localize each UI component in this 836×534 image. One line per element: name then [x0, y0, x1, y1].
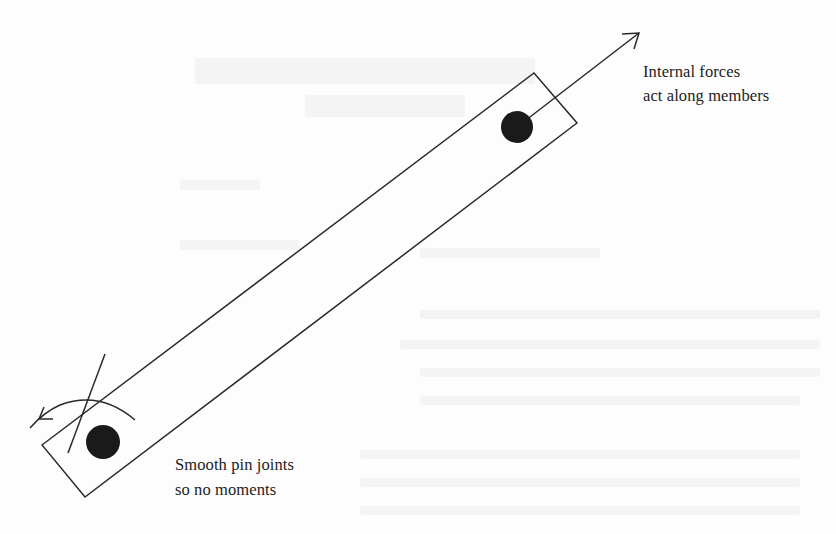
lower-pin-joint: [86, 425, 120, 459]
truss-member: [42, 73, 577, 497]
internal-forces-line-1: Internal forces: [643, 60, 769, 84]
figure-page: Internal forces act along members Smooth…: [0, 0, 836, 534]
pin-joints-line-2: so no moments: [175, 477, 294, 502]
pin-joints-annotation: Smooth pin joints so no moments: [175, 452, 294, 502]
upper-pin-joint: [501, 111, 533, 143]
pin-joints-line-1: Smooth pin joints: [175, 452, 294, 477]
force-arrow-shaft: [517, 33, 639, 127]
internal-forces-annotation: Internal forces act along members: [643, 60, 769, 108]
internal-forces-line-2: act along members: [643, 84, 769, 108]
